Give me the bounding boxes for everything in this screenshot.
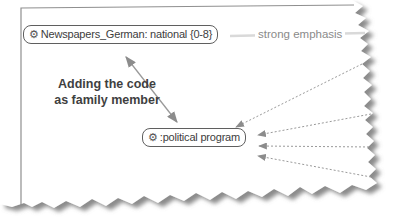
code-icon: ⚙ bbox=[29, 29, 39, 40]
annotation-line-1: Adding the code bbox=[37, 76, 177, 92]
annotation-callout: Adding the code as family member bbox=[37, 76, 177, 109]
annotation-line-2: as family member bbox=[37, 92, 177, 108]
code-icon: ⚙ bbox=[148, 132, 158, 143]
code-node-political-program[interactable]: ⚙ :political program bbox=[142, 128, 246, 147]
code-node-label: Newspapers_German: national {0-8} bbox=[41, 27, 212, 42]
relation-label-strong-emphasis[interactable]: strong emphasis bbox=[255, 28, 345, 40]
code-node-label: :political program bbox=[160, 130, 240, 145]
torn-screenshot-figure: ⚙ Newspapers_German: national {0-8} stro… bbox=[0, 0, 397, 223]
code-node-newspapers-german-national[interactable]: ⚙ Newspapers_German: national {0-8} bbox=[23, 25, 218, 44]
